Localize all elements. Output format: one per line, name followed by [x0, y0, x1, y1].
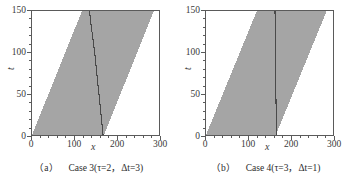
- x-tick-label: 300: [327, 139, 341, 149]
- panel-b-caption: （b）Case 4(τ=3，Δt=1): [177, 160, 354, 174]
- y-tick-label: 0: [195, 131, 200, 141]
- caption-index: （a）: [34, 163, 60, 173]
- y-tick-label: 0: [21, 131, 26, 141]
- y-tick-label: 100: [186, 47, 200, 57]
- y-tick-label: 50: [17, 89, 27, 99]
- panel-a: 0 50 100 150 0 100 200: [0, 0, 177, 187]
- x-axis-title: x: [265, 141, 269, 152]
- caption-text: Case 3(τ=2，Δt=3): [69, 163, 144, 173]
- x-tick-label: 0: [203, 139, 208, 149]
- caption-index: （b）: [211, 163, 237, 173]
- x-tick-label: 100: [67, 139, 81, 149]
- y-tick-label: 150: [12, 5, 26, 15]
- y-axis-title: t: [5, 67, 16, 70]
- x-tick-label: 300: [153, 139, 167, 149]
- tick-layer-a: 0 50 100 150 0 100 200: [31, 10, 160, 136]
- x-tick-label: 200: [284, 139, 298, 149]
- panel-b: 0 50 100 150 0 100 200 3: [177, 0, 354, 187]
- x-tick-label: 100: [241, 139, 255, 149]
- panel-a-caption: （a）Case 3(τ=2，Δt=3): [0, 160, 177, 174]
- y-tick-label: 100: [12, 47, 26, 57]
- x-axis-title: x: [91, 141, 95, 152]
- x-tick-label: 0: [29, 139, 34, 149]
- y-tick-label: 150: [186, 5, 200, 15]
- caption-text: Case 4(τ=3，Δt=1): [246, 163, 321, 173]
- x-tick-label: 200: [110, 139, 124, 149]
- tick-layer-b: 0 50 100 150 0 100 200 3: [205, 10, 334, 136]
- y-axis-title: t: [182, 67, 193, 70]
- y-tick-label: 50: [191, 89, 201, 99]
- figure-space-time-diagrams: 0 50 100 150 0 100 200: [0, 0, 354, 187]
